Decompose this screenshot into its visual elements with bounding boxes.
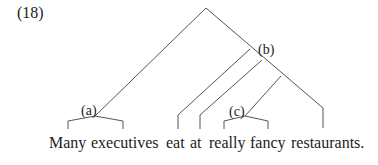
branch-root-to-restaurants [206,8,323,128]
word-really: really [209,134,245,152]
word-eat: eat [166,134,185,152]
example-number: (18) [17,4,44,22]
word-at: at [190,134,202,152]
node-label-c: (c) [229,104,245,120]
branch-root-to-a [95,8,206,116]
node-label-b: (b) [258,42,274,58]
word-executives: executives [91,134,159,152]
syntax-tree-diagram: (18) (a) (b) (c) Many executives eat at … [0,0,378,165]
word-many: Many [49,134,86,152]
word-restaurants: restaurants. [291,134,364,152]
branch-to-c [245,76,281,116]
node-label-a: (a) [81,103,97,119]
word-fancy: fancy [250,134,286,152]
